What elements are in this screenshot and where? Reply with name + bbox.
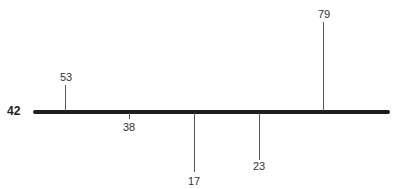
branch-label-38: 38: [123, 121, 135, 133]
branch-stem-23: [259, 113, 260, 160]
branch-stem-17: [194, 113, 195, 172]
root-label: 42: [7, 104, 20, 118]
branch-label-53: 53: [60, 71, 72, 83]
branch-stem-79: [323, 22, 324, 111]
branch-label-79: 79: [318, 8, 330, 20]
branch-stem-38: [129, 113, 130, 119]
branch-label-17: 17: [188, 175, 200, 187]
branch-stem-53: [65, 85, 66, 111]
main-line: [33, 110, 390, 114]
branch-label-23: 23: [253, 160, 265, 172]
